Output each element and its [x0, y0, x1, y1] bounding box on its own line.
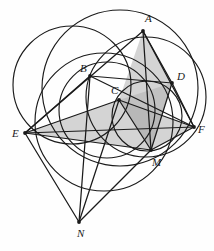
vertex-dot-e	[23, 131, 27, 135]
vertex-dot-d	[170, 81, 174, 85]
segment-M-N	[79, 150, 151, 222]
vertex-dot-c	[117, 98, 121, 102]
point-label-c: C	[111, 84, 119, 96]
vertex-dot-m	[149, 148, 153, 152]
point-label-m: M	[151, 156, 162, 168]
geometry-figure-container: ABCDEFMN	[0, 0, 214, 251]
point-label-e: E	[11, 127, 19, 139]
vertex-dot-n	[77, 220, 81, 224]
segment-B-N	[79, 76, 90, 222]
circles-layer	[13, 10, 206, 191]
vertex-dot-a	[141, 29, 145, 33]
vertex-dot-b	[88, 74, 92, 78]
vertex-dot-f	[192, 125, 196, 129]
geometry-diagram: ABCDEFMN	[0, 0, 214, 251]
point-label-a: A	[144, 12, 152, 24]
point-label-d: D	[176, 70, 185, 82]
point-label-f: F	[197, 123, 205, 135]
segment-E-N	[25, 133, 79, 222]
point-label-n: N	[76, 227, 85, 239]
point-label-b: B	[80, 62, 87, 74]
